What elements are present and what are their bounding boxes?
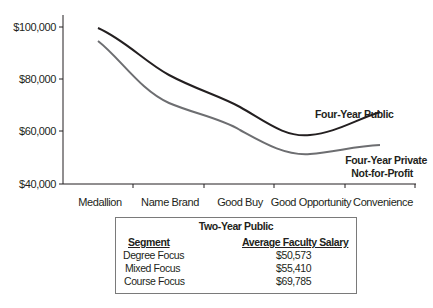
y-ticks [59,27,63,184]
column-header-segment: Segment [128,236,170,248]
series-line-four-year-private [98,41,380,154]
series-label-private-line2: Not-for-Profit [351,167,414,179]
series-label-private-line1: Four-Year Private [345,154,427,166]
table-row: Degree Focus $50,573 [116,249,356,262]
y-tick-label: $40,000 [19,178,56,190]
line-chart: $100,000 $80,000 $60,000 $40,000 Medalli… [0,0,433,215]
table-row: Course Focus $69,785 [116,275,356,288]
x-tick-label: Good Buy [217,196,264,208]
segment-cell: Degree Focus [123,249,184,261]
segment-cell: Course Focus [124,275,185,287]
y-tick-label: $80,000 [19,73,56,85]
column-header-salary: Average Faculty Salary [242,236,348,248]
table-row: Mixed Focus $55,410 [116,262,356,275]
y-tick-label: $60,000 [19,125,56,137]
series-label-public: Four-Year Public [315,108,394,120]
two-year-public-table: Two-Year Public Segment Average Faculty … [115,217,357,294]
salary-cell: $55,410 [276,262,311,274]
x-tick-label: Good Opportunity [271,196,352,208]
x-tick-label: Name Brand [141,196,199,208]
y-tick-label: $100,000 [13,21,56,33]
x-ticks [133,184,415,188]
x-tick-label: Convenience [353,196,413,208]
table-title: Two-Year Public [116,220,356,232]
x-tick-label: Medallion [78,196,122,208]
salary-cell: $69,785 [276,275,311,287]
segment-cell: Mixed Focus [125,262,180,274]
salary-cell: $50,573 [276,249,311,261]
